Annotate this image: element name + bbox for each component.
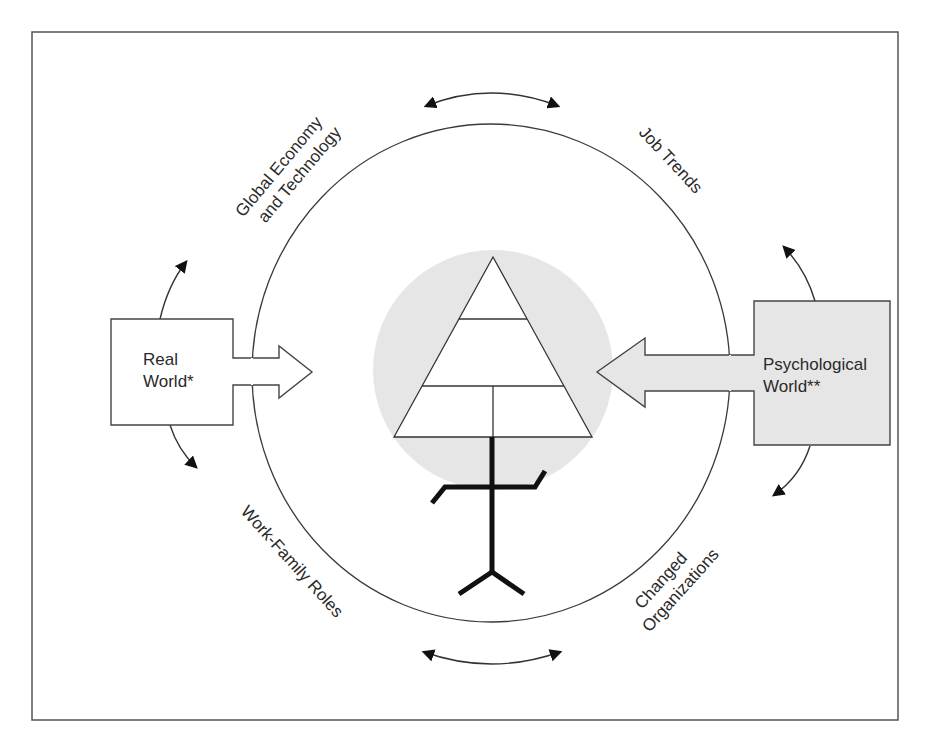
left-up-arrow-icon: [160, 262, 186, 319]
left-down-arrow-icon: [170, 425, 196, 467]
right-up-arrow-icon: [784, 247, 815, 301]
work-family-roles-text: Work-Family Roles: [237, 502, 347, 621]
psychological-world-box: Psychological World**: [597, 301, 890, 445]
label-job-trends: Job Trends: [635, 123, 706, 197]
psychological-world-label-line2: World**: [763, 377, 821, 396]
job-trends-text: Job Trends: [635, 123, 706, 197]
real-world-box: Real World*: [111, 319, 312, 425]
top-cycle-arrow-icon: [426, 93, 558, 106]
career-model-diagram: Real World* Psychological World** Global…: [0, 0, 929, 747]
psychological-world-label-line1: Psychological: [763, 355, 867, 374]
bottom-cycle-arrow-icon: [424, 652, 560, 664]
label-global-economy: Global Economy and Technology: [232, 109, 346, 234]
label-work-family-roles: Work-Family Roles: [237, 502, 347, 621]
real-world-label-line1: Real: [143, 350, 178, 369]
right-down-arrow-icon: [774, 446, 810, 495]
label-changed-organizations: Changed Organizations: [623, 531, 723, 636]
real-world-label-line2: World*: [143, 372, 194, 391]
